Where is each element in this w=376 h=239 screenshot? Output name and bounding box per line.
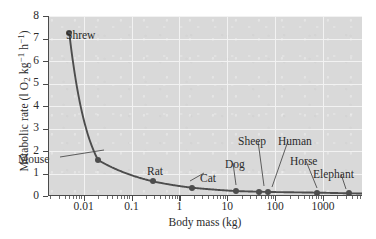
x-tick-minor [81, 196, 82, 199]
x-tick-minor [271, 196, 272, 199]
point-label-dog: Dog [225, 158, 245, 170]
y-tick-mark [43, 174, 48, 175]
leader-line-sheep [258, 141, 264, 186]
x-tick-minor [202, 196, 203, 199]
x-tick-minor [316, 196, 317, 199]
x-tick-minor [121, 196, 122, 199]
y-tick-label: 4 [13, 99, 39, 111]
point-label-shrew: Shrew [66, 29, 95, 41]
x-tick-minor [250, 196, 251, 199]
leader-line-mouse [60, 150, 104, 157]
point-label-cat: Cat [200, 172, 216, 184]
x-tick-minor [360, 196, 361, 199]
x-tick-minor [242, 196, 243, 199]
x-tick-minor [273, 196, 274, 199]
point-label-horse: Horse [290, 155, 317, 167]
x-tick-minor [290, 196, 291, 199]
x-tick-label: 0.1 [105, 200, 159, 212]
x-tick-minor [261, 196, 262, 199]
x-tick-minor [357, 196, 358, 199]
x-tick-minor [98, 196, 99, 199]
x-tick-minor [69, 196, 70, 199]
y-tick-label: 2 [13, 144, 39, 156]
x-tick-minor [172, 196, 173, 199]
x-tick-minor [129, 196, 130, 199]
y-tick-label: 1 [13, 166, 39, 178]
point-label-human: Human [278, 135, 312, 147]
metabolic-rate-figure: Metabolic rate (l O2 kg−1 h−1) ShrewMous… [0, 0, 376, 239]
x-tick-minor [76, 196, 77, 199]
x-tick-minor [213, 196, 214, 199]
x-tick-minor [298, 196, 299, 199]
x-tick-minor [127, 196, 128, 199]
y-tick-mark [43, 84, 48, 85]
y-tick-label: 7 [13, 31, 39, 43]
x-tick-minor [177, 196, 178, 199]
y-tick-label: 6 [13, 54, 39, 66]
x-tick-minor [165, 196, 166, 199]
y-tick-label: 8 [13, 9, 39, 21]
point-label-rat: Rat [147, 165, 163, 177]
x-tick-minor [346, 196, 347, 199]
x-tick-minor [225, 196, 226, 199]
x-tick-label: 1000 [296, 200, 350, 212]
x-tick-label: 10 [200, 200, 254, 212]
x-tick-minor [312, 196, 313, 199]
x-tick-minor [154, 196, 155, 199]
x-tick-label: 100 [248, 200, 302, 212]
x-tick-minor [208, 196, 209, 199]
y-tick-mark [43, 39, 48, 40]
y-tick-mark [43, 129, 48, 130]
y-tick-label: 5 [13, 76, 39, 88]
x-tick-minor [352, 196, 353, 199]
x-tick-minor [256, 196, 257, 199]
y-tick-mark [43, 16, 48, 17]
x-tick-label: 0.01 [57, 200, 111, 212]
x-tick-minor [194, 196, 195, 199]
x-tick-minor [59, 196, 60, 199]
x-tick-label: 1 [152, 200, 206, 212]
x-tick-minor [223, 196, 224, 199]
x-tick-minor [79, 196, 80, 199]
x-tick-minor [217, 196, 218, 199]
point-label-sheep: Sheep [238, 135, 266, 147]
x-axis-label: Body mass (kg) [48, 216, 362, 228]
x-tick-minor [265, 196, 266, 199]
y-tick-label: 3 [13, 121, 39, 133]
x-tick-minor [107, 196, 108, 199]
x-tick-minor [160, 196, 161, 199]
leader-line-human [272, 141, 288, 187]
x-tick-minor [309, 196, 310, 199]
x-tick-minor [268, 196, 269, 199]
x-tick-minor [117, 196, 118, 199]
y-tick-mark [43, 61, 48, 62]
x-tick-minor [50, 196, 51, 199]
x-tick-minor [175, 196, 176, 199]
y-tick-label: 0 [13, 189, 39, 201]
y-tick-mark [43, 196, 48, 197]
x-tick-minor [146, 196, 147, 199]
x-tick-minor [112, 196, 113, 199]
x-tick-minor [318, 196, 319, 199]
x-tick-minor [304, 196, 305, 199]
x-tick-minor [65, 196, 66, 199]
x-tick-minor [124, 196, 125, 199]
x-tick-minor [337, 196, 338, 199]
point-label-elephant: Elephant [313, 168, 354, 180]
x-tick-minor [220, 196, 221, 199]
y-tick-mark [43, 151, 48, 152]
x-tick-minor [169, 196, 170, 199]
x-tick-minor [73, 196, 74, 199]
y-tick-mark [43, 106, 48, 107]
x-tick-minor [321, 196, 322, 199]
